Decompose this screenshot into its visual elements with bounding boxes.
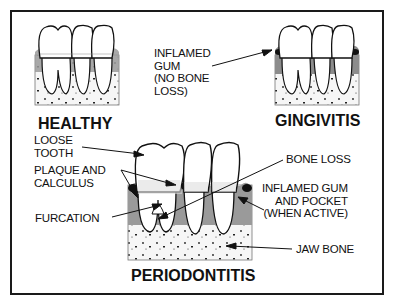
label-inflamed-gum-no-bone-loss: INFLAMED GUM (NO BONE LOSS) — [154, 47, 211, 97]
label-bone-loss: BONE LOSS — [286, 153, 351, 166]
panel-title-healthy: HEALTHY — [38, 115, 112, 133]
periodontitis-teeth-illustration — [128, 143, 252, 261]
label-jaw-bone: JAW BONE — [296, 243, 354, 256]
healthy-teeth-illustration — [35, 25, 119, 105]
label-plaque-and-calculus: PLAQUE AND CALCULUS — [34, 164, 106, 189]
panel-title-periodontitis: PERIODONTITIS — [131, 267, 255, 285]
label-loose-tooth: LOOSE TOOTH — [34, 134, 73, 159]
label-furcation: FURCATION — [35, 212, 99, 225]
label-inflamed-gum-and-pocket: INFLAMED GUM AND POCKET (WHEN ACTIVE) — [262, 182, 348, 220]
panel-title-gingivitis: GINGIVITIS — [275, 112, 360, 130]
gingivitis-teeth-illustration — [275, 25, 359, 105]
